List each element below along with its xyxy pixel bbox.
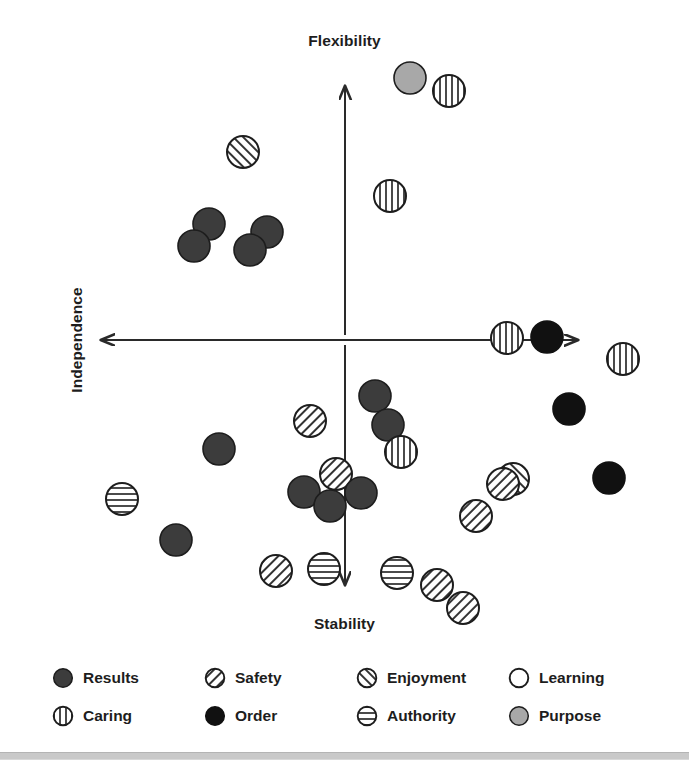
- legend-label: Safety: [235, 669, 282, 687]
- legend-item-enjoyment[interactable]: Enjoyment: [356, 667, 508, 689]
- data-point-safety[interactable]: Safety: [460, 500, 492, 532]
- scatter-plot-canvas: PurposeCaringEnjoymentCaringResultsResul…: [0, 0, 689, 645]
- legend-swatch-caring-icon: [52, 705, 74, 727]
- legend-item-authority[interactable]: Authority: [356, 705, 508, 727]
- data-point-caring[interactable]: Caring: [491, 322, 523, 354]
- data-point-enjoyment[interactable]: Enjoyment: [227, 136, 259, 168]
- data-point-layer: PurposeCaringEnjoymentCaringResultsResul…: [106, 62, 639, 624]
- data-point-order[interactable]: Order: [553, 393, 585, 425]
- data-point-authority[interactable]: Authority: [381, 557, 413, 589]
- legend-label: Learning: [539, 669, 604, 687]
- legend-label: Order: [235, 707, 277, 725]
- legend-row: ResultsSafetyEnjoymentLearning: [52, 659, 637, 697]
- legend-label: Caring: [83, 707, 132, 725]
- data-point-results[interactable]: Results: [203, 433, 235, 465]
- legend-label: Purpose: [539, 707, 601, 725]
- data-point-results[interactable]: Results: [314, 490, 346, 522]
- data-point-authority[interactable]: Authority: [308, 553, 340, 585]
- data-point-caring[interactable]: Caring: [385, 436, 417, 468]
- chart-legend: ResultsSafetyEnjoymentLearning CaringOrd…: [0, 645, 689, 753]
- legend-swatch-results-icon: [52, 667, 74, 689]
- legend-item-order[interactable]: Order: [204, 705, 356, 727]
- legend-swatch-order-icon: [204, 705, 226, 727]
- data-point-safety[interactable]: Safety: [294, 405, 326, 437]
- legend-label: Enjoyment: [387, 669, 466, 687]
- data-point-caring[interactable]: Caring: [433, 75, 465, 107]
- data-point-results[interactable]: Results: [345, 477, 377, 509]
- scatter-plot-svg: PurposeCaringEnjoymentCaringResultsResul…: [0, 0, 689, 645]
- data-point-results[interactable]: Results: [234, 234, 266, 266]
- legend-item-safety[interactable]: Safety: [204, 667, 356, 689]
- data-point-caring[interactable]: Caring: [607, 343, 639, 375]
- data-point-results[interactable]: Results: [160, 524, 192, 556]
- legend-label: Results: [83, 669, 139, 687]
- axis-label-flexibility: Flexibility: [0, 32, 689, 50]
- legend-swatch-enjoyment-icon: [356, 667, 378, 689]
- data-point-order[interactable]: Order: [593, 462, 625, 494]
- data-point-safety[interactable]: Safety: [487, 468, 519, 500]
- legend-swatch-authority-icon: [356, 705, 378, 727]
- legend-swatch-safety-icon: [204, 667, 226, 689]
- legend-label: Authority: [387, 707, 456, 725]
- legend-item-results[interactable]: Results: [52, 667, 204, 689]
- axis-label-stability: Stability: [0, 615, 689, 633]
- legend-row: CaringOrderAuthorityPurpose: [52, 697, 637, 735]
- legend-item-purpose[interactable]: Purpose: [508, 705, 601, 727]
- data-point-authority[interactable]: Authority: [106, 483, 138, 515]
- bottom-divider: [0, 752, 689, 760]
- legend-swatch-learning-icon: [508, 667, 530, 689]
- data-point-safety[interactable]: Safety: [421, 569, 453, 601]
- data-point-order[interactable]: Order: [531, 321, 563, 353]
- legend-swatch-purpose-icon: [508, 705, 530, 727]
- legend-item-learning[interactable]: Learning: [508, 667, 604, 689]
- data-point-results[interactable]: Results: [178, 230, 210, 262]
- chart-page: PurposeCaringEnjoymentCaringResultsResul…: [0, 0, 689, 774]
- data-point-safety[interactable]: Safety: [260, 555, 292, 587]
- data-point-purpose[interactable]: Purpose: [394, 62, 426, 94]
- axis-label-independence: Independence: [68, 287, 86, 392]
- data-point-results[interactable]: Results: [359, 380, 391, 412]
- legend-item-caring[interactable]: Caring: [52, 705, 204, 727]
- data-point-caring[interactable]: Caring: [374, 180, 406, 212]
